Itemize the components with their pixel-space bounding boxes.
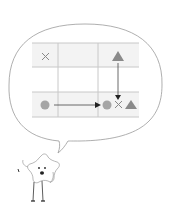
circle-icon — [41, 101, 50, 110]
circle-icon — [103, 101, 112, 110]
grid-row-top — [32, 43, 139, 67]
diagram-canvas — [0, 0, 169, 218]
star-mascot — [18, 154, 59, 201]
